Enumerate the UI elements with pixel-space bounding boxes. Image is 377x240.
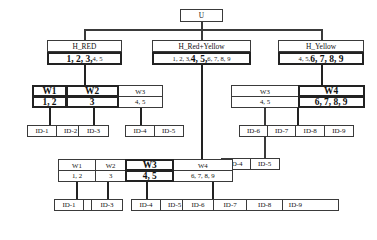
wtable-ry-value-w1: 1, 2 [58,170,96,182]
node-h-red-values: 1, 2, 3, 4, 5 [47,52,122,65]
id-box-bottom-id-4[interactable]: ID-4 [131,199,161,211]
id-box-bottom-id-7[interactable]: ID-7 [213,199,248,211]
ids-upper-mid[interactable]: ID-3 [78,125,109,137]
ids-upper-right[interactable]: ID-4 ID-5 [125,125,184,137]
node-h-red-yellow-values-prefix: 1, 2, 3, [173,55,191,62]
id-box-id-4[interactable]: ID-4 [125,125,155,137]
wtable-yellow-value-w4: 6, 7, 8, 9 [298,96,365,108]
wtable-red-value-w2: 3 [66,96,119,108]
connector-w4-to-ids [297,108,299,125]
connector-w2-to-ids [93,108,95,125]
node-h-red[interactable]: H_RED 1, 2, 3, 4, 5 [47,40,122,65]
node-h-red-yellow-values: 1, 2, 3, 4, 5, 6, 7, 8, 9 [152,52,251,65]
node-h-yellow-values-highlight: 6, 7, 8, 9 [310,54,343,64]
wtable-yellow-value-row: 4, 5 6, 7, 8, 9 [231,97,365,108]
id-box-bottom-id-9[interactable]: ID-9 [282,199,339,211]
node-h-yellow[interactable]: H_Yellow 4, 5, 6, 7, 8, 9 [278,40,364,65]
ids-bottom-mid[interactable]: ID-3 [91,199,123,211]
connector-h-yellow-to-wtable [321,65,323,85]
diagram-canvas: U H_RED 1, 2, 3, 4, 5 H_Red+Yellow 1, 2,… [0,0,377,240]
node-h-yellow-values-prefix: 4, 5, [299,55,311,62]
wtable-ry-value-w4: 6, 7, 8, 9 [173,170,233,182]
node-root-u-label: U [199,12,204,19]
connector-bottom-w3-to-ids [146,182,148,199]
node-h-red-values-rest: 4, 5 [93,55,103,62]
node-root-u[interactable]: U [180,9,223,22]
wtable-ry-value-w2: 3 [95,170,127,182]
ids-bottom-w3[interactable]: ID-4 ID-5 [131,199,190,211]
connector-to-h-red-yellow [201,29,203,40]
wtable-red[interactable]: W1 W2 W3 1, 2 3 4, 5 [32,85,163,108]
node-h-red-yellow-values-highlight: 4, 5, [191,54,208,64]
id-box-yellow-id-8[interactable]: ID-8 [295,125,325,137]
id-box-bottom-id-8[interactable]: ID-8 [246,199,283,211]
node-h-red-title: H_RED [47,40,122,52]
connector-to-h-yellow [321,29,323,40]
ids-bottom-w4[interactable]: ID-6 ID-7 ID-8 ID-9 [182,199,339,211]
connector-bottom-w4-to-ids [212,182,214,199]
wtable-red-value-w3: 4, 5 [117,96,163,108]
connector-bottom-w1-to-ids [76,182,78,199]
wtable-red-yellow-value-row: 1, 2 3 4, 5 6, 7, 8, 9 [58,171,233,182]
connector-w1-to-ids [49,108,51,125]
id-box-id-1[interactable]: ID-1 [27,125,57,137]
wtable-yellow[interactable]: W3 W4 4, 5 6, 7, 8, 9 [231,85,365,108]
wtable-red-value-row: 1, 2 3 4, 5 [32,97,163,108]
connector-bottom-w2-to-ids [107,182,109,199]
node-h-yellow-values: 4, 5, 6, 7, 8, 9 [278,52,364,65]
ids-upper-left[interactable]: ID-1 ID-2 [27,125,86,137]
connector-h-red-to-wtable [84,65,86,85]
node-h-red-values-highlight: 1, 2, 3, [66,54,92,64]
id-box-bottom-id-1[interactable]: ID-1 [54,199,84,211]
connector-h-red-yellow-to-wtable [201,65,203,159]
node-h-yellow-title: H_Yellow [278,40,364,52]
id-box-yellow-id-9[interactable]: ID-9 [324,125,354,137]
id-box-id-5[interactable]: ID-5 [154,125,184,137]
wtable-yellow-value-w3: 4, 5 [231,96,299,108]
id-box-mid-id-5[interactable]: ID-5 [250,158,280,170]
id-box-yellow-id-7[interactable]: ID-7 [267,125,297,137]
node-h-red-yellow-values-rest: 6, 7, 8, 9 [207,55,230,62]
ids-yellow[interactable]: ID-6 ID-7 ID-8 ID-9 [239,125,354,137]
node-h-red-yellow[interactable]: H_Red+Yellow 1, 2, 3, 4, 5, 6, 7, 8, 9 [152,40,251,65]
connector-to-h-red [84,29,86,40]
wtable-red-value-w1: 1, 2 [32,96,67,108]
id-box-bottom-id-3[interactable]: ID-3 [91,199,123,211]
connector-w3-to-ids [140,108,142,125]
node-h-red-yellow-title: H_Red+Yellow [152,40,251,52]
wtable-ry-value-w3: 4, 5 [125,170,174,182]
wtable-red-yellow[interactable]: W1 W2 W3 W4 1, 2 3 4, 5 6, 7, 8, 9 [58,159,233,182]
id-box-id-3[interactable]: ID-3 [78,125,109,137]
connector-root-bus [84,29,322,31]
id-box-yellow-id-6[interactable]: ID-6 [239,125,268,137]
id-box-bottom-id-6[interactable]: ID-6 [182,199,214,211]
